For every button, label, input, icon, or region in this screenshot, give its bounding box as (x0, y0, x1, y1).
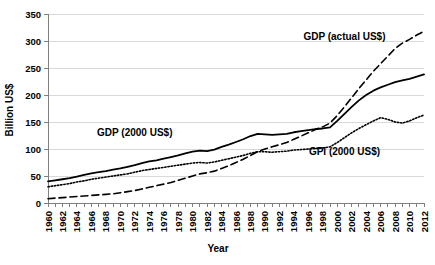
x-tick-label: 2012 (419, 211, 430, 232)
x-tick-label: 1968 (100, 211, 111, 232)
series-label-gdp-2000-us: GDP (2000 US$) (97, 127, 172, 138)
x-tick-label: 2000 (332, 211, 343, 232)
x-tick-label: 2002 (346, 211, 357, 232)
x-tick-label: 2010 (404, 211, 415, 232)
x-tick-label: 1984 (216, 210, 227, 232)
x-tick-label: 1970 (115, 211, 126, 232)
x-tick-label: 1974 (144, 210, 155, 232)
y-tick-label: 350 (25, 9, 41, 20)
x-tick-label: 1962 (57, 211, 68, 232)
series-label-gdp-actual-us: GDP (actual US$) (303, 31, 385, 42)
x-tick-marks-group (48, 203, 424, 207)
x-tick-label: 1990 (259, 211, 270, 232)
axis-lines-group (48, 14, 424, 203)
x-tick-label: 2008 (390, 211, 401, 232)
y-tick-label: 250 (25, 63, 41, 74)
y-axis-title: Billion US$ (4, 83, 15, 136)
y-tick-marks-group (44, 14, 48, 203)
y-tick-label: 100 (25, 144, 41, 155)
x-tick-label: 1980 (187, 211, 198, 232)
x-tick-label: 1976 (158, 211, 169, 232)
data-series-group (48, 31, 424, 198)
x-tick-label: 1986 (231, 211, 242, 232)
y-tick-label: 0 (36, 198, 41, 209)
x-tick-label: 1964 (71, 210, 82, 232)
x-tick-labels-group: 1960196219641966196819701972197419761978… (43, 210, 430, 232)
series-label-gpi-2000-us: GPI (2000 US$) (309, 146, 380, 157)
x-axis-title: Year (207, 243, 228, 254)
line-chart: 050100150200250300350 196019621964196619… (0, 0, 435, 265)
x-tick-label: 1966 (86, 211, 97, 232)
y-tick-label: 150 (25, 117, 41, 128)
x-tick-label: 2006 (375, 211, 386, 232)
x-tick-label: 1998 (317, 211, 328, 232)
y-tick-labels-group: 050100150200250300350 (25, 9, 41, 209)
x-tick-label: 1996 (303, 211, 314, 232)
x-tick-label: 1994 (288, 210, 299, 232)
x-tick-label: 1978 (173, 211, 184, 232)
x-tick-label: 2004 (361, 210, 372, 232)
chart-container: 050100150200250300350 196019621964196619… (0, 0, 435, 265)
x-tick-label: 1972 (129, 211, 140, 232)
y-tick-label: 200 (25, 90, 41, 101)
y-tick-label: 50 (30, 171, 41, 182)
x-tick-label: 1982 (202, 211, 213, 232)
series-line-gdp-actual-us (48, 31, 424, 198)
y-tick-label: 300 (25, 36, 41, 47)
x-tick-label: 1992 (274, 211, 285, 232)
x-tick-label: 1988 (245, 211, 256, 232)
x-tick-label: 1960 (43, 211, 54, 232)
